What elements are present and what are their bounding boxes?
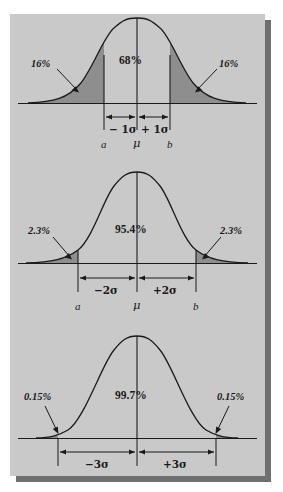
axis-label-b: b (193, 301, 199, 312)
axis-label-b: b (213, 475, 219, 476)
axis-label-mu: μ (133, 300, 140, 312)
right-dimension-arrow (139, 449, 214, 454)
panel-one-sigma: 16% 16% 68% − 1σ + 1σ a μ b (10, 14, 265, 164)
right-tail-percent-label: 16% (219, 59, 238, 70)
right-bound-sigma-label: +3σ (163, 459, 187, 470)
panel-three-sigma: 0.15% 0.15% 99.7% −3σ +3σ a μ b (10, 324, 265, 476)
axis-label-a: a (101, 139, 107, 150)
axis-label-b: b (167, 139, 173, 150)
left-bound-sigma-label: −2σ (94, 285, 118, 296)
right-bound-sigma-label: +2σ (153, 285, 177, 296)
right-leader-arrow (202, 237, 221, 260)
right-dimension-arrow (139, 275, 194, 280)
axis-label-a: a (55, 475, 61, 476)
left-dimension-arrow (80, 275, 135, 280)
right-leader-arrow (195, 69, 217, 93)
left-dimension-arrow (60, 449, 135, 454)
right-tail-percent-label: 0.15% (217, 392, 244, 403)
right-leader-arrow (216, 406, 230, 434)
left-tail-percent-label: 2.3% (28, 226, 50, 237)
figure-card: 16% 16% 68% − 1σ + 1σ a μ b (10, 14, 265, 476)
center-percent-label: 95.4% (115, 224, 147, 236)
left-leader-arrow (45, 406, 59, 434)
left-leader-arrow (57, 69, 79, 93)
left-bound-sigma-label: − 1σ (109, 124, 137, 135)
axis-label-mu: μ (133, 474, 140, 476)
axis-label-a: a (75, 301, 81, 312)
right-bound-sigma-label: + 1σ (141, 124, 169, 135)
center-percent-label: 68% (119, 55, 142, 67)
right-tail-percent-label: 2.3% (220, 226, 242, 237)
panel-two-sigma: 2.3% 2.3% 95.4% −2σ +2σ a μ b (10, 164, 265, 324)
left-bound-sigma-label: −3σ (85, 459, 109, 470)
left-leader-arrow (53, 237, 72, 260)
left-tail-percent-label: 16% (31, 59, 50, 70)
right-dimension-arrow (139, 114, 168, 119)
left-tail-percent-label: 0.15% (24, 392, 51, 403)
center-percent-label: 99.7% (115, 390, 147, 402)
axis-label-mu: μ (133, 138, 140, 150)
left-dimension-arrow (106, 114, 135, 119)
